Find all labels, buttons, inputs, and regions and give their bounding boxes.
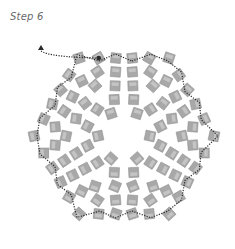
bead <box>109 94 120 105</box>
bead <box>69 147 83 161</box>
bead <box>81 139 94 152</box>
bead <box>104 151 118 165</box>
bead <box>177 154 191 168</box>
bead <box>160 74 173 87</box>
bead <box>187 140 198 151</box>
bead <box>50 140 61 151</box>
bead <box>156 96 170 110</box>
bead <box>66 90 79 103</box>
bead <box>144 130 156 142</box>
bead <box>109 180 122 193</box>
bead <box>90 102 104 116</box>
bead <box>127 195 138 206</box>
bead-diagram <box>0 0 235 249</box>
bead <box>66 169 79 182</box>
bead <box>198 112 211 125</box>
bead <box>75 184 88 197</box>
bead <box>81 120 94 133</box>
bead <box>127 67 138 78</box>
bead <box>57 154 71 168</box>
bead <box>144 65 158 79</box>
bead <box>144 156 158 170</box>
bead <box>89 180 102 193</box>
bead <box>187 122 198 133</box>
bead <box>70 113 81 124</box>
bead <box>156 162 170 176</box>
bead <box>146 79 160 93</box>
bead <box>110 67 121 78</box>
bead <box>62 190 76 204</box>
bead <box>169 169 182 182</box>
bead <box>91 65 105 79</box>
bead <box>128 81 138 91</box>
bead <box>126 180 139 193</box>
bead <box>128 94 139 105</box>
bead <box>160 184 173 197</box>
bead <box>169 90 182 103</box>
bead <box>57 104 71 118</box>
bead <box>78 162 92 176</box>
bead <box>127 53 138 64</box>
bead <box>60 130 72 142</box>
bead <box>109 167 120 178</box>
bead <box>75 74 88 87</box>
bead <box>126 208 139 221</box>
bead <box>92 130 104 142</box>
bead <box>166 113 177 124</box>
bead <box>163 52 176 65</box>
bead <box>208 130 220 142</box>
bead <box>72 207 86 221</box>
bead <box>176 130 188 142</box>
bead <box>131 107 144 120</box>
bead <box>93 208 104 219</box>
bead <box>105 107 118 120</box>
bead <box>50 122 61 133</box>
bead <box>147 180 160 193</box>
bead <box>154 120 167 133</box>
bead <box>91 193 105 207</box>
bead <box>181 175 194 188</box>
bead <box>154 139 167 152</box>
bead <box>177 104 191 118</box>
bead <box>62 68 76 82</box>
bead <box>110 195 121 206</box>
thread-knot-icon <box>96 56 101 61</box>
bead <box>144 102 158 116</box>
bead <box>45 161 59 175</box>
bead <box>78 96 92 110</box>
bead <box>130 151 144 165</box>
thread-arrow-icon <box>38 45 44 50</box>
bead <box>110 81 120 91</box>
bead <box>144 193 158 207</box>
bead <box>165 147 179 161</box>
bead <box>128 167 139 178</box>
bead <box>88 79 102 93</box>
beads-group <box>28 51 220 221</box>
bead <box>162 207 176 221</box>
bead <box>90 156 104 170</box>
bead <box>180 83 194 97</box>
bead <box>142 51 156 65</box>
